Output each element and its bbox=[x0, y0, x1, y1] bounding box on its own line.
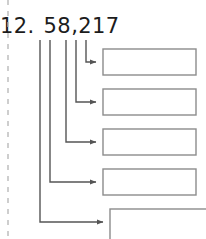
answer-box-3[interactable] bbox=[103, 129, 196, 155]
answer-box-5[interactable] bbox=[110, 209, 206, 239]
connector-group bbox=[40, 40, 103, 222]
place-value-diagram bbox=[0, 0, 206, 239]
leader-digit-7 bbox=[86, 40, 96, 62]
answer-box-4[interactable] bbox=[103, 169, 196, 195]
answer-box-2[interactable] bbox=[103, 89, 196, 115]
worksheet-page: 12.58,217 bbox=[0, 0, 206, 239]
answer-box-group bbox=[103, 49, 206, 239]
answer-box-1[interactable] bbox=[103, 49, 196, 75]
leader-digit-2 bbox=[66, 40, 96, 142]
